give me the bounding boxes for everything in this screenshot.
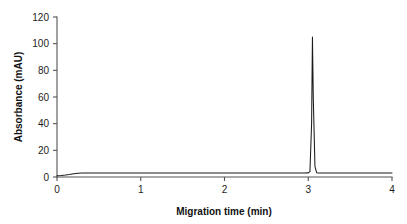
x-axis-title: Migration time (min) [176, 206, 272, 217]
x-tick-label: 3 [305, 184, 311, 195]
x-tick-label: 2 [222, 184, 228, 195]
x-tick-label: 1 [138, 184, 144, 195]
electropherogram-chart: 020406080100120 01234 Migration time (mi… [0, 0, 407, 224]
chart-figure: 020406080100120 01234 Migration time (mi… [0, 0, 407, 224]
y-axis-title: Absorbance (mAU) [13, 52, 24, 143]
y-tick-label: 40 [38, 118, 50, 129]
y-tick-label: 20 [38, 145, 50, 156]
y-tick-label: 60 [38, 92, 50, 103]
x-tick-label: 4 [389, 184, 395, 195]
y-tick-label: 80 [38, 65, 50, 76]
chart-background [0, 0, 407, 224]
y-tick-label: 0 [43, 172, 49, 183]
x-tick-label: 0 [54, 184, 60, 195]
y-tick-label: 100 [32, 38, 49, 49]
y-tick-label: 120 [32, 12, 49, 23]
